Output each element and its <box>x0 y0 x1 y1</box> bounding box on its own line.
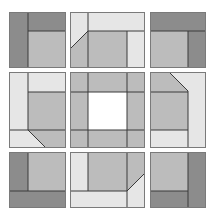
tile-1[interactable] <box>9 12 66 68</box>
tile-puzzle-board <box>0 0 210 219</box>
tile-6[interactable] <box>150 72 206 148</box>
tile-4[interactable] <box>9 72 66 148</box>
tile-5[interactable] <box>70 72 145 148</box>
tile-7[interactable] <box>9 152 66 208</box>
tile-8[interactable] <box>70 152 145 208</box>
tile-9[interactable] <box>150 152 206 208</box>
tile-2[interactable] <box>70 12 145 68</box>
tile-3[interactable] <box>150 12 206 68</box>
